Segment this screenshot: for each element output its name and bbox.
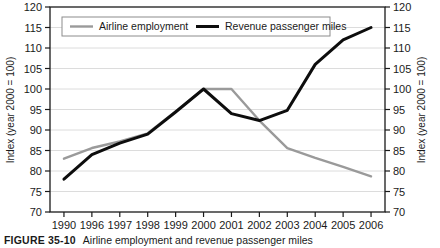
x-axis-tick-2004: 2004 (303, 219, 327, 231)
y-axis-left-label: Index (year 2000 = 100) (5, 57, 16, 163)
x-axis-tick-1996: 1996 (80, 219, 104, 231)
y-axis-right-tick-110: 110 (393, 42, 411, 54)
y-axis-right-tick-70: 70 (393, 206, 405, 218)
chart-background (0, 0, 440, 248)
y-axis-left-tick-90: 90 (30, 124, 42, 136)
y-axis-left-tick-120: 120 (24, 1, 42, 13)
y-axis-left-tick-85: 85 (30, 145, 42, 157)
legend-box: Airline employment Revenue passenger mil… (62, 17, 346, 36)
x-axis-tick-1998: 1998 (135, 219, 159, 231)
x-axis-tick-2005: 2005 (331, 219, 355, 231)
figure-caption-text: Airline employment and revenue passenger… (83, 234, 313, 246)
y-axis-left-tick-100: 100 (24, 83, 42, 95)
y-axis-left-tick-105: 105 (24, 63, 42, 75)
y-axis-right-tick-120: 120 (393, 1, 411, 13)
legend-label-airline-employment: Airline employment (99, 20, 188, 32)
y-axis-right-tick-90: 90 (393, 124, 405, 136)
x-axis-tick-1990: 1990 (52, 219, 76, 231)
y-axis-right-tick-100: 100 (393, 83, 411, 95)
y-axis-left-tick-80: 80 (30, 165, 42, 177)
y-axis-right-tick-105: 105 (393, 63, 411, 75)
y-axis-right-tick-75: 75 (393, 186, 405, 198)
y-axis-left-tick-70: 70 (30, 206, 42, 218)
figure-container: 707580859095100105110115120 707580859095… (0, 0, 440, 248)
x-axis-tick-2003: 2003 (275, 219, 299, 231)
x-axis-tick-1999: 1999 (163, 219, 187, 231)
x-axis-tick-2006: 2006 (359, 219, 383, 231)
y-axis-right-tick-95: 95 (393, 104, 405, 116)
x-axis-tick-1997: 1997 (108, 219, 132, 231)
y-axis-right-tick-85: 85 (393, 145, 405, 157)
y-axis-left-tick-95: 95 (30, 104, 42, 116)
y-axis-right-tick-115: 115 (393, 22, 411, 34)
figure-caption-number: FIGURE 35-10 (4, 234, 76, 246)
x-axis-tick-2001: 2001 (219, 219, 243, 231)
x-axis-tick-2002: 2002 (247, 219, 271, 231)
y-axis-left-tick-75: 75 (30, 186, 42, 198)
y-axis-left-tick-110: 110 (24, 42, 42, 54)
y-axis-left-tick-115: 115 (24, 22, 42, 34)
figure-caption: FIGURE 35-10Airline employment and reven… (4, 233, 440, 247)
x-axis-tick-2000: 2000 (191, 219, 215, 231)
y-axis-right-label: Index (year 2000 = 100) (416, 57, 427, 163)
y-axis-right-tick-80: 80 (393, 165, 405, 177)
chart-canvas: 707580859095100105110115120 707580859095… (0, 0, 440, 248)
legend-label-revenue-passenger-miles: Revenue passenger miles (225, 20, 346, 32)
